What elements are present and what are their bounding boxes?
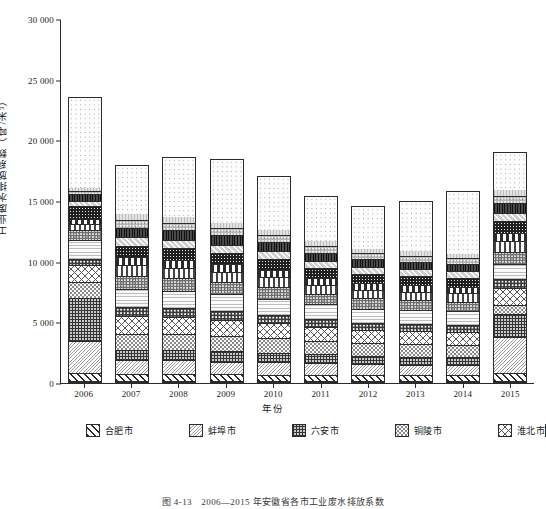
bar-segment[interactable]: [116, 361, 148, 374]
bar-segment[interactable]: [163, 158, 195, 217]
bar-segment[interactable]: [69, 374, 101, 382]
bar-segment[interactable]: [494, 374, 526, 382]
bar-segment[interactable]: [400, 263, 432, 271]
bar-segment[interactable]: [494, 315, 526, 338]
bar-segment[interactable]: [447, 294, 479, 302]
bar-segment[interactable]: [447, 279, 479, 288]
bar-segment[interactable]: [211, 352, 243, 362]
bar-segment[interactable]: [116, 335, 148, 351]
bar-segment[interactable]: [494, 153, 526, 190]
bar-segment[interactable]: [447, 358, 479, 366]
bar-segment[interactable]: [352, 291, 384, 300]
bar-segment[interactable]: [258, 339, 290, 353]
bar-segment[interactable]: [211, 375, 243, 382]
bar-segment[interactable]: [116, 166, 148, 215]
bar-segment[interactable]: [352, 275, 384, 284]
bar-segment[interactable]: [211, 160, 243, 223]
bar-column[interactable]: [257, 20, 291, 383]
bar-segment[interactable]: [69, 342, 101, 373]
bar-segment[interactable]: [352, 365, 384, 376]
bar-segment[interactable]: [352, 310, 384, 324]
bar-segment[interactable]: [69, 283, 101, 299]
bar-segment[interactable]: [116, 221, 148, 228]
bar-segment[interactable]: [116, 214, 148, 221]
legend-item[interactable]: 淮北市: [498, 421, 545, 440]
bar-segment[interactable]: [116, 229, 148, 239]
bar-segment[interactable]: [494, 306, 526, 316]
bar-segment[interactable]: [116, 351, 148, 362]
bar-segment[interactable]: [211, 229, 243, 236]
bar-segment[interactable]: [352, 284, 384, 291]
bar-segment[interactable]: [69, 98, 101, 188]
bar-segment[interactable]: [400, 311, 432, 325]
stacked-bar[interactable]: [399, 201, 433, 383]
bar-segment[interactable]: [163, 241, 195, 249]
bar-segment[interactable]: [211, 254, 243, 265]
bar-segment[interactable]: [116, 247, 148, 258]
bar-segment[interactable]: [305, 279, 337, 286]
bar-segment[interactable]: [352, 357, 384, 366]
bar-segment[interactable]: [211, 273, 243, 283]
bar-segment[interactable]: [352, 376, 384, 382]
bar-segment[interactable]: [163, 351, 195, 362]
bar-segment[interactable]: [116, 290, 148, 308]
bar-segment[interactable]: [400, 202, 432, 251]
legend-item[interactable]: 六安市: [292, 421, 395, 440]
bar-segment[interactable]: [163, 231, 195, 241]
bar-segment[interactable]: [69, 266, 101, 283]
bar-segment[interactable]: [163, 279, 195, 291]
bar-segment[interactable]: [400, 293, 432, 301]
bar-segment[interactable]: [258, 271, 290, 279]
stacked-bar[interactable]: [446, 191, 480, 383]
bar-segment[interactable]: [305, 262, 337, 269]
bar-segment[interactable]: [69, 299, 101, 342]
bar-segment[interactable]: [211, 236, 243, 245]
bar-segment[interactable]: [69, 195, 101, 202]
bar-segment[interactable]: [258, 324, 290, 339]
bar-segment[interactable]: [211, 246, 243, 254]
stacked-bar[interactable]: [210, 159, 244, 383]
bar-segment[interactable]: [258, 316, 290, 324]
bar-segment[interactable]: [447, 312, 479, 326]
stacked-bar[interactable]: [68, 97, 102, 383]
bar-segment[interactable]: [163, 249, 195, 260]
bar-segment[interactable]: [400, 270, 432, 277]
bar-column[interactable]: [210, 20, 244, 383]
legend-item[interactable]: 铜陵市: [395, 421, 498, 440]
bar-segment[interactable]: [400, 358, 432, 366]
bar-segment[interactable]: [447, 192, 479, 254]
bar-segment[interactable]: [258, 363, 290, 375]
bar-segment[interactable]: [258, 288, 290, 299]
bar-segment[interactable]: [305, 197, 337, 241]
bar-segment[interactable]: [211, 337, 243, 352]
bar-segment[interactable]: [69, 241, 101, 260]
bar-segment[interactable]: [352, 268, 384, 275]
bar-segment[interactable]: [258, 252, 290, 260]
bar-segment[interactable]: [211, 312, 243, 321]
bar-segment[interactable]: [494, 197, 526, 204]
bar-segment[interactable]: [69, 231, 101, 241]
bar-segment[interactable]: [163, 375, 195, 382]
bar-segment[interactable]: [447, 303, 479, 313]
bar-segment[interactable]: [163, 318, 195, 335]
bar-segment[interactable]: [163, 224, 195, 231]
bar-segment[interactable]: [258, 278, 290, 288]
bar-segment[interactable]: [211, 265, 243, 273]
bar-segment[interactable]: [258, 376, 290, 383]
bar-segment[interactable]: [69, 207, 101, 220]
bar-segment[interactable]: [494, 289, 526, 306]
bar-segment[interactable]: [258, 260, 290, 271]
bar-segment[interactable]: [494, 242, 526, 253]
bar-segment[interactable]: [494, 280, 526, 289]
bar-segment[interactable]: [494, 204, 526, 214]
bar-segment[interactable]: [116, 308, 148, 317]
bar-segment[interactable]: [116, 375, 148, 382]
bar-segment[interactable]: [258, 243, 290, 252]
bar-segment[interactable]: [116, 258, 148, 266]
bar-segment[interactable]: [352, 299, 384, 309]
bar-segment[interactable]: [400, 376, 432, 382]
bar-segment[interactable]: [447, 366, 479, 376]
bar-segment[interactable]: [447, 333, 479, 346]
bar-segment[interactable]: [305, 269, 337, 279]
bar-segment[interactable]: [400, 332, 432, 345]
